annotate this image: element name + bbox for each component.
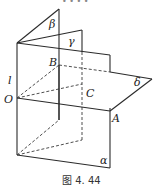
plane-alpha	[17, 43, 110, 168]
plane-diagram: • • • • β γ δ α l O A B C 图 4.	[0, 0, 160, 188]
construction-lines	[17, 65, 82, 155]
label-l: l	[8, 74, 12, 87]
label-A: A	[111, 112, 120, 125]
label-B: B	[48, 56, 57, 69]
label-beta: β	[48, 18, 55, 31]
line-OC	[17, 84, 82, 98]
label-gamma: γ	[68, 35, 75, 48]
plane-delta	[17, 65, 152, 111]
label-delta: δ	[134, 76, 141, 89]
line-OA	[17, 98, 110, 111]
label-O: O	[4, 93, 13, 106]
label-C: C	[86, 87, 95, 100]
label-alpha: α	[100, 154, 108, 167]
figure-caption: 图 4. 44	[62, 175, 101, 186]
cropped-top-text: • • • •	[62, 0, 89, 6]
